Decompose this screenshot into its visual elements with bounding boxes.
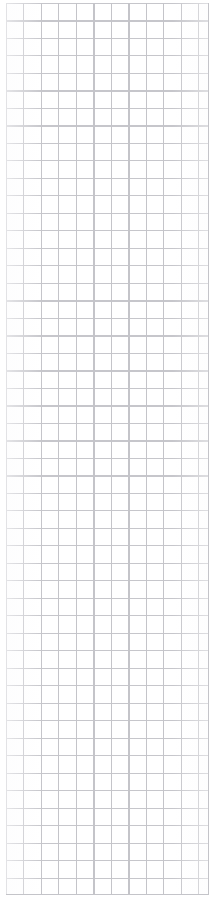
paper-tone-overlay <box>6 3 209 895</box>
page-canvas <box>0 0 215 907</box>
grid-sheet <box>6 3 209 895</box>
grid-right-edge-rule <box>208 3 209 895</box>
grid-bottom-edge-rule <box>6 894 209 895</box>
